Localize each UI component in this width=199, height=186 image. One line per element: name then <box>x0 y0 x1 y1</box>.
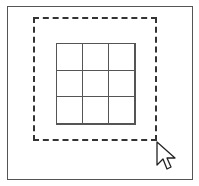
grid-cell <box>82 96 109 124</box>
grid-cell <box>56 43 83 71</box>
grid-cell <box>108 70 135 98</box>
grid-cell <box>56 70 83 98</box>
grid-cell <box>56 96 83 124</box>
arrow-pointer-icon <box>156 141 178 173</box>
grid-object[interactable] <box>56 43 136 125</box>
grid-cell <box>82 43 109 71</box>
grid-cell <box>82 70 109 98</box>
grid-cell <box>108 43 135 71</box>
grid-cell <box>108 96 135 124</box>
